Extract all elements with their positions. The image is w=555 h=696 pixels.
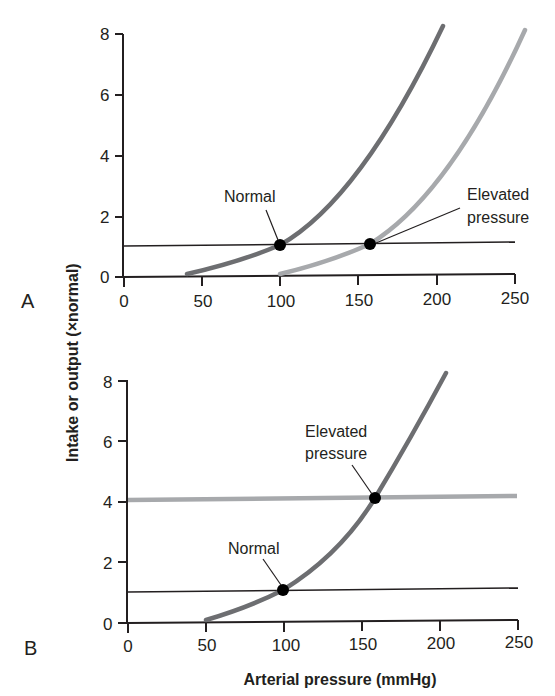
panel-b-y-tick-label: 0 [103,615,112,634]
panel-b-x-tick-label: 200 [427,634,455,653]
panel-a-x-tick-label: 150 [345,291,373,310]
panel-a-normal-point [274,239,286,251]
panel-b-leader-elevated [352,465,372,494]
panel-a-letter: A [21,290,35,312]
panel-b-y-ticks [118,381,127,623]
panel-b-x-tick-label: 250 [505,633,533,652]
panel-b-x-tick-label: 150 [349,635,377,654]
panel-b-leader-normal [263,559,281,585]
panel-b-x-tick-label: 0 [123,637,132,656]
panel-a-annotation-elevated-2: pressure [467,209,529,226]
x-axis-title: Arterial pressure (mmHg) [244,671,437,688]
panel-a-x-tick-label: 50 [194,292,213,311]
panel-b-letter: B [24,637,37,659]
panel-a-x-tick-label: 100 [267,292,295,311]
panel-b-x-tick-label: 100 [272,636,300,655]
panel-b-x-axis [127,620,518,623]
panel-a-y-tick-label: 0 [100,268,109,287]
panel-b-intake-line-elevated [128,496,517,500]
panel-b-y-tick-label: 4 [103,493,112,512]
figure-canvas: 8 6 4 2 0 0 50 100 150 200 250 Normal [0,0,555,696]
panel-b: 8 6 4 2 0 0 50 100 150 200 250 Normal [24,373,533,659]
y-axis-title: Intake or output (×normal) [64,263,81,462]
panel-a-output-curve-normal [187,26,443,274]
panel-a-x-tick-label: 200 [423,290,451,309]
panel-a-y-tick-label: 2 [100,208,109,227]
panel-a-annotation-elevated-1: Elevated [467,186,529,203]
panel-b-y-tick-label: 6 [103,433,112,452]
panel-b-annotation-normal: Normal [228,540,280,557]
panel-b-annotation-elevated-2: pressure [305,445,367,462]
panel-a-x-tick-label: 0 [119,292,128,311]
panel-b-elevated-point [369,492,381,504]
panel-b-x-tick-label: 50 [198,636,217,655]
panel-a-output-curve-shifted [280,30,525,274]
panel-a-leader-elevated [376,208,460,243]
panel-a-annotation-normal: Normal [224,188,276,205]
panel-a-y-tick-label: 8 [100,25,109,44]
panel-b-annotation-elevated-1: Elevated [305,423,367,440]
panel-b-normal-point [277,584,289,596]
panel-a: 8 6 4 2 0 0 50 100 150 200 250 Normal [21,25,529,312]
panel-a-y-tick-label: 6 [100,86,109,105]
panel-a-y-ticks [115,34,123,277]
panel-b-intake-line-normal [128,588,518,592]
panel-a-y-tick-label: 4 [100,147,109,166]
panel-a-leader-normal [266,210,278,240]
panel-a-x-tick-label: 250 [501,289,529,308]
panel-a-intake-line [124,242,515,246]
panel-b-y-tick-label: 2 [103,554,112,573]
panel-b-y-tick-label: 8 [103,373,112,392]
panel-a-elevated-point [364,238,376,250]
panel-a-x-axis [123,274,515,277]
